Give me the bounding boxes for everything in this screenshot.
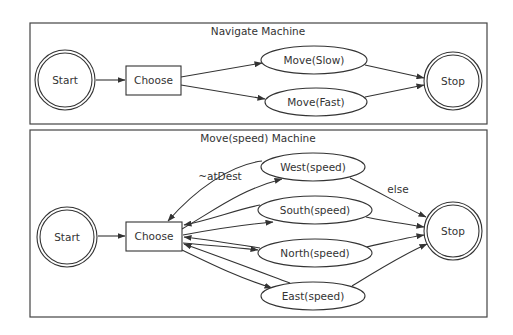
node-east-label: East(speed) [282, 290, 345, 302]
node-start: Start [37, 207, 97, 267]
node-north-label: North(speed) [280, 247, 349, 259]
move-speed-machine-title: Move(speed) Machine [200, 132, 315, 144]
navigate-machine-panel: Navigate Machine Start Choose Move(Slow)… [30, 23, 487, 124]
node-stop-label: Stop [441, 225, 465, 237]
edge-slow-stop [365, 65, 424, 78]
move-speed-machine-panel: Move(speed) Machine ~atDest else Start C… [30, 130, 487, 317]
node-move-fast-label: Move(Fast) [287, 96, 344, 108]
edge-choose-north [183, 243, 258, 250]
node-stop-label: Stop [441, 75, 465, 87]
node-choose-label: Choose [134, 74, 173, 86]
navigate-machine-frame [30, 23, 487, 124]
edge-fast-stop [365, 85, 424, 97]
node-move-slow: Move(Slow) [261, 46, 367, 74]
edge-choose-south [183, 222, 273, 235]
edge-label-atdest: ~atDest [198, 170, 241, 182]
node-move-slow-label: Move(Slow) [284, 54, 345, 66]
state-machine-diagram: Navigate Machine Start Choose Move(Slow)… [0, 0, 513, 335]
edge-choose-fast [181, 85, 265, 99]
node-south: South(speed) [258, 196, 372, 224]
node-move-fast: Move(Fast) [265, 88, 367, 116]
edge-label-else: else [387, 183, 408, 195]
node-west: West(speed) [261, 153, 365, 181]
node-west-label: West(speed) [280, 161, 346, 173]
node-stop: Stop [424, 202, 482, 260]
node-start: Start [35, 50, 95, 110]
edge-south-stop [366, 217, 424, 227]
node-east: East(speed) [261, 282, 365, 310]
edge-south-choose [184, 205, 260, 225]
node-choose: Choose [126, 66, 181, 95]
node-start-label: Start [52, 74, 78, 86]
node-south-label: South(speed) [280, 204, 350, 216]
node-north: North(speed) [258, 239, 372, 267]
edge-north-stop [366, 235, 424, 247]
node-choose: Choose [126, 222, 182, 251]
node-start-label: Start [54, 231, 80, 243]
node-choose-label: Choose [135, 230, 174, 242]
node-stop: Stop [424, 52, 482, 110]
edge-choose-slow [181, 63, 262, 77]
navigate-machine-title: Navigate Machine [211, 25, 305, 37]
